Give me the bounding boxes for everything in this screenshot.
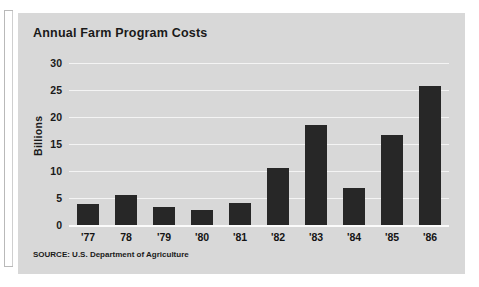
y-tick-label-20: 20	[50, 111, 62, 123]
y-tick-label-25: 25	[50, 84, 62, 96]
bar-group: '79	[145, 63, 183, 225]
x-tick-label: '80	[183, 231, 221, 243]
bar-series: '7778'79'80'81'82'83'84'85'86	[69, 63, 449, 225]
bar	[229, 203, 252, 225]
chart-panel: Annual Farm Program Costs Billions 05101…	[18, 13, 465, 274]
bar-group: '82	[259, 63, 297, 225]
bar-group: '86	[411, 63, 449, 225]
x-tick-label: '81	[221, 231, 259, 243]
x-tick-label: '84	[335, 231, 373, 243]
bar	[77, 204, 100, 225]
x-tick-label: '77	[69, 231, 107, 243]
source-note: SOURCE: U.S. Department of Agriculture	[33, 250, 189, 259]
y-tick-label-0: 0	[56, 219, 62, 231]
bar	[343, 188, 366, 225]
bar	[305, 125, 328, 225]
bar	[381, 135, 404, 225]
bar	[191, 210, 214, 225]
y-axis-title: Billions	[32, 116, 44, 156]
x-tick-label: '86	[411, 231, 449, 243]
bar	[115, 195, 138, 225]
x-tick-label: '79	[145, 231, 183, 243]
plot-area: 051015202530 '7778'79'80'81'82'83'84'85'…	[69, 63, 449, 225]
x-tick-label: '82	[259, 231, 297, 243]
bar-group: '84	[335, 63, 373, 225]
x-tick-label: 78	[107, 231, 145, 243]
page-gutter-rule-top	[4, 10, 13, 11]
bar	[419, 86, 442, 225]
y-tick-label-15: 15	[50, 138, 62, 150]
y-tick-label-10: 10	[50, 165, 62, 177]
bar-group: '83	[297, 63, 335, 225]
bar-group: '80	[183, 63, 221, 225]
bar-group: '81	[221, 63, 259, 225]
bar-group: '85	[373, 63, 411, 225]
page-gutter-rule-outer	[4, 10, 5, 266]
chart-title: Annual Farm Program Costs	[33, 26, 207, 40]
gridline-0	[69, 225, 449, 227]
bar	[267, 168, 290, 225]
page-gutter-rule-inner	[12, 10, 13, 266]
x-tick-label: '83	[297, 231, 335, 243]
page-gutter-rule-bottom	[4, 266, 13, 267]
y-tick-label-30: 30	[50, 57, 62, 69]
y-tick-label-5: 5	[56, 192, 62, 204]
bar-group: 78	[107, 63, 145, 225]
x-tick-label: '85	[373, 231, 411, 243]
bar-group: '77	[69, 63, 107, 225]
bar	[153, 207, 176, 225]
